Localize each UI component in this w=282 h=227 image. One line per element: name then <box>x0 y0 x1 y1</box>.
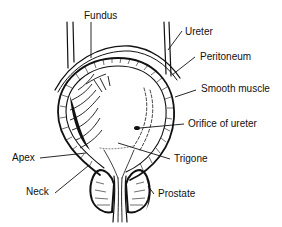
prostate <box>90 170 150 212</box>
leader-trigone <box>118 143 170 159</box>
label-apex: Apex <box>12 153 35 163</box>
leader-peritoneum <box>172 57 195 75</box>
label-prostate: Prostate <box>158 189 195 199</box>
fold-shading <box>70 96 90 150</box>
bladder-wall-inner <box>66 66 166 172</box>
leader-neck <box>55 166 88 193</box>
leader-orifice <box>140 124 184 128</box>
left-ureter <box>67 22 74 68</box>
label-trigone: Trigone <box>174 154 208 164</box>
smooth-muscle-hatching <box>60 58 173 170</box>
label-peritoneum: Peritoneum <box>200 52 251 62</box>
label-ureter: Ureter <box>185 27 213 37</box>
mucosal-folds <box>70 74 110 148</box>
label-fundus: Fundus <box>84 11 117 21</box>
urethra <box>113 176 127 222</box>
label-smooth-muscle: Smooth muscle <box>201 84 270 94</box>
label-neck: Neck <box>26 187 49 197</box>
ureter-orifice <box>134 126 140 130</box>
leader-smooth-muscle <box>175 90 196 97</box>
label-orifice-of-ureter: Orifice of ureter <box>188 119 257 129</box>
